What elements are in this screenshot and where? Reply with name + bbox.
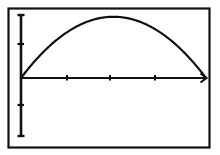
screenshot-root xyxy=(0,0,220,155)
graph-figure xyxy=(0,0,220,155)
